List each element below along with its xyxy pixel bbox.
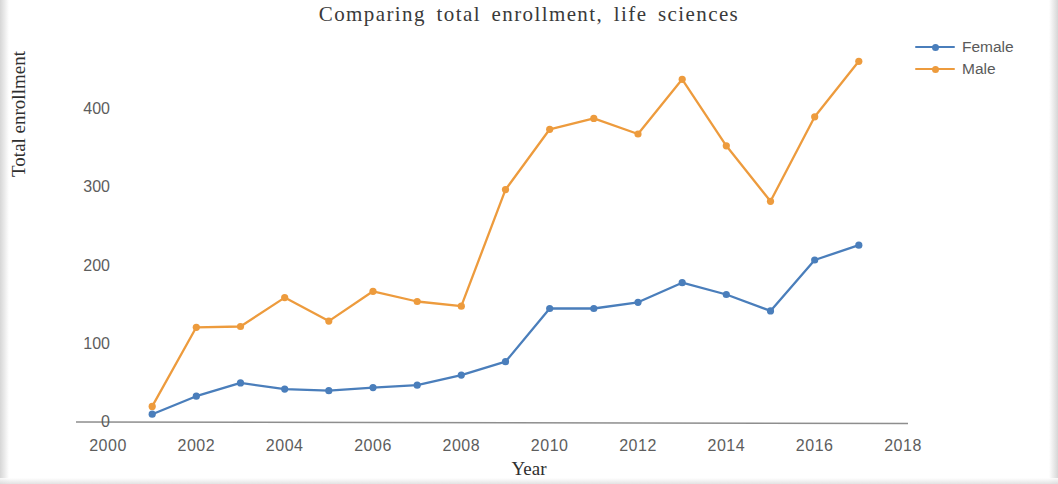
data-point-marker (634, 299, 641, 306)
data-point-marker (679, 76, 686, 83)
data-point-marker (723, 291, 730, 298)
data-point-marker (149, 411, 156, 418)
data-point-marker (149, 403, 156, 410)
data-point-marker (502, 358, 509, 365)
x-tick-label: 2018 (884, 437, 922, 455)
y-tick-label: 0 (58, 413, 110, 431)
data-point-marker (458, 303, 465, 310)
y-tick-label: 200 (58, 257, 110, 275)
data-point-marker (325, 318, 332, 325)
data-point-marker (193, 324, 200, 331)
data-point-marker (590, 115, 597, 122)
y-tick-label: 400 (58, 100, 110, 118)
legend-label: Male (962, 60, 996, 78)
legend-swatch-icon (915, 41, 955, 53)
data-point-marker (237, 323, 244, 330)
x-tick-label: 2006 (354, 437, 392, 455)
data-point-marker (634, 130, 641, 137)
x-tick-label: 2016 (796, 437, 834, 455)
data-point-marker (281, 294, 288, 301)
data-point-marker (237, 379, 244, 386)
data-point-marker (767, 307, 774, 314)
line-chart-plot (0, 0, 1058, 484)
series-line-female (152, 245, 859, 414)
data-point-marker (855, 58, 862, 65)
data-point-marker (811, 113, 818, 120)
x-axis-title: Year (0, 458, 1058, 480)
data-point-marker (193, 393, 200, 400)
data-point-marker (590, 305, 597, 312)
x-axis-line (76, 422, 908, 424)
data-point-marker (546, 305, 553, 312)
x-tick-label: 2004 (266, 437, 304, 455)
data-point-marker (369, 288, 376, 295)
y-tick-label: 100 (58, 335, 110, 353)
legend-item-male[interactable]: Male (915, 58, 1014, 80)
data-point-marker (679, 279, 686, 286)
y-tick-label: 300 (58, 178, 110, 196)
data-point-marker (767, 198, 774, 205)
data-point-marker (414, 298, 421, 305)
x-tick-label: 2012 (619, 437, 657, 455)
legend-item-female[interactable]: Female (915, 36, 1014, 58)
series-line-male (152, 61, 859, 406)
legend-label: Female (962, 38, 1014, 56)
x-tick-label: 2000 (89, 437, 127, 455)
chart-legend: FemaleMale (915, 36, 1014, 80)
legend-swatch-icon (915, 63, 955, 75)
data-point-marker (325, 387, 332, 394)
axis-layer (76, 422, 908, 424)
y-axis-title: Total enrollment (8, 14, 30, 214)
data-point-marker (414, 382, 421, 389)
data-point-marker (458, 372, 465, 379)
series-layer (149, 58, 863, 418)
data-point-marker (369, 384, 376, 391)
chart-page: Comparing total enrollment, life science… (0, 0, 1058, 484)
data-point-marker (811, 256, 818, 263)
x-tick-label: 2010 (531, 437, 569, 455)
data-point-marker (723, 142, 730, 149)
data-point-marker (855, 242, 862, 249)
x-tick-label: 2014 (708, 437, 746, 455)
x-tick-label: 2002 (178, 437, 216, 455)
data-point-marker (281, 386, 288, 393)
data-point-marker (502, 186, 509, 193)
x-tick-label: 2008 (443, 437, 481, 455)
data-point-marker (546, 126, 553, 133)
